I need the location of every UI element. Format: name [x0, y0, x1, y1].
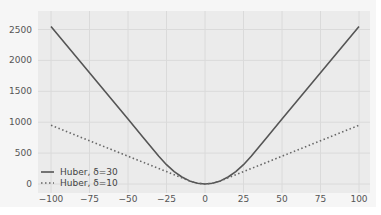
- x-tick-label: 50: [276, 194, 288, 204]
- y-tick-label: 500: [15, 148, 32, 158]
- x-tick-label: 0: [202, 194, 208, 204]
- x-tick-label: −75: [80, 194, 99, 204]
- y-tick-label: 2500: [9, 25, 32, 35]
- x-tick-label: −50: [119, 194, 138, 204]
- y-tick-label: 1500: [9, 86, 32, 96]
- huber-loss-chart: −100−75−50−25025507510005001000150020002…: [0, 0, 381, 215]
- y-tick-label: 1000: [9, 117, 32, 127]
- y-tick-label: 2000: [9, 55, 32, 65]
- legend-label: Huber, δ=30: [60, 167, 118, 177]
- chart-canvas: −100−75−50−25025507510005001000150020002…: [0, 0, 381, 215]
- legend-label: Huber, δ=10: [60, 178, 118, 188]
- x-tick-label: −100: [39, 194, 64, 204]
- x-tick-label: −25: [157, 194, 176, 204]
- x-tick-label: 25: [238, 194, 249, 204]
- x-tick-label: 100: [350, 194, 367, 204]
- x-tick-label: 75: [315, 194, 326, 204]
- y-tick-label: 0: [26, 179, 32, 189]
